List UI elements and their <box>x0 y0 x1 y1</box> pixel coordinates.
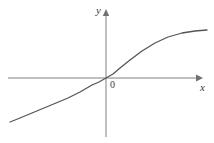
function-curve <box>10 30 207 122</box>
function-graph-figure: y x 0 <box>0 0 214 143</box>
plot-canvas <box>0 0 214 143</box>
x-axis-label: x <box>200 82 205 93</box>
y-axis-label: y <box>96 5 101 16</box>
origin-label: 0 <box>110 80 115 90</box>
y-axis-arrow-icon <box>103 9 109 16</box>
